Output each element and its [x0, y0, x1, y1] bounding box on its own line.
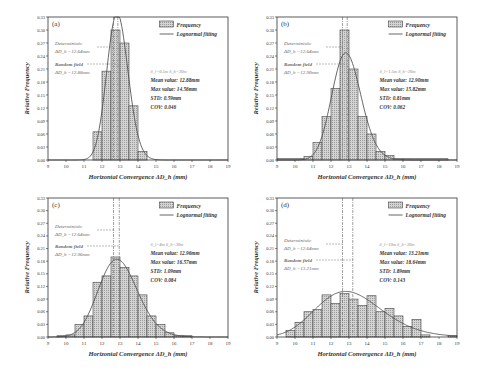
y-tick-label: 0.21 [266, 246, 274, 251]
x-tick-label: 15 [154, 341, 160, 346]
x-tick-label: 11 [82, 341, 87, 346]
x-tick-label: 16 [401, 164, 407, 169]
y-tick-label: 0.21 [266, 67, 274, 72]
y-tick-label: 0.12 [266, 106, 274, 111]
x-tick-label: 9 [276, 164, 279, 169]
y-tick-label: 0.27 [37, 41, 46, 46]
x-tick-label: 15 [383, 164, 389, 169]
x-tick-label: 19 [455, 164, 461, 169]
cov-text: COV: 0.143 [380, 277, 406, 283]
x-tick-label: 17 [190, 341, 196, 346]
y-tick-label: 0.30 [266, 208, 275, 213]
legend-frequency-swatch [160, 202, 174, 208]
y-tick-label: 0.21 [37, 246, 45, 251]
y-axis-label: Relative Frequency [23, 62, 30, 115]
y-tick-label: 0.30 [266, 28, 275, 33]
x-tick-label: 17 [419, 164, 425, 169]
random-field-value: ΔD_h =12.96mm [54, 252, 90, 257]
x-axis-label: Horizontal Convergence ΔD_h (mm) [317, 350, 417, 358]
x-tick-label: 9 [276, 341, 279, 346]
histogram-bar [367, 296, 376, 337]
y-tick-label: 0.24 [266, 233, 275, 238]
x-tick-label: 9 [47, 164, 50, 169]
histogram-bar [111, 30, 120, 160]
legend-frequency-swatch [389, 21, 403, 27]
mean-value-text: Mean value: 13.21mm [379, 250, 429, 256]
x-tick-label: 11 [311, 164, 316, 169]
x-tick-label: 12 [100, 341, 106, 346]
y-tick-label: 0.03 [37, 145, 46, 150]
histogram-bar [111, 257, 120, 337]
deterministic-label: Deterministic [54, 41, 83, 46]
x-tick-label: 14 [136, 164, 142, 169]
histogram-bar [376, 312, 385, 337]
legend-fit-label: Lognormal fitting [405, 212, 447, 218]
max-value-text: Max value: 15.82mm [379, 86, 426, 92]
histogram-bar [403, 326, 412, 337]
deterministic-value: ΔD_h =12.64mm [283, 49, 319, 54]
params-text: δ_l=1.5m δ_h=30m [380, 69, 417, 74]
random-field-value: ΔD_h =13.21mm [283, 266, 319, 271]
x-tick-label: 12 [100, 164, 106, 169]
panel-label: (b) [281, 20, 290, 28]
y-tick-label: 0.15 [37, 271, 46, 276]
histogram-bar [84, 316, 93, 337]
histogram-bar [340, 30, 349, 160]
std-text: STD: 1.09mm [151, 268, 182, 274]
x-tick-label: 13 [118, 341, 124, 346]
std-text: STD: 0.81mm [380, 95, 411, 101]
y-tick-label: 0.03 [266, 145, 275, 150]
random-field-label: Random field [55, 62, 83, 67]
random-field-label: Random field [284, 62, 312, 67]
y-tick-label: 0.06 [266, 309, 275, 314]
y-tick-label: 0.18 [37, 80, 46, 85]
cov-text: COV: 0.046 [151, 104, 177, 110]
y-axis-label: Relative Frequency [252, 241, 259, 294]
y-tick-label: 0.00 [266, 335, 275, 340]
histogram-bar [331, 89, 340, 161]
y-tick-label: 0.00 [37, 335, 46, 340]
histogram-bar [313, 143, 322, 160]
cov-text: COV: 0.062 [380, 104, 406, 110]
y-tick-label: 0.03 [266, 322, 275, 327]
x-tick-label: 13 [118, 164, 124, 169]
x-tick-label: 15 [154, 164, 160, 169]
x-tick-label: 10 [64, 164, 70, 169]
cov-text: COV: 0.084 [151, 277, 177, 283]
chart-panel-d: 9101112131415161718190.000.030.060.090.1… [252, 196, 460, 359]
y-tick-label: 0.33 [266, 196, 275, 201]
mean-value-text: Mean value: 12.96mm [150, 250, 200, 256]
deterministic-label: Deterministic [283, 238, 312, 243]
y-tick-label: 0.24 [37, 54, 46, 59]
x-tick-label: 19 [226, 164, 232, 169]
histogram-bar [156, 324, 165, 337]
y-tick-label: 0.09 [37, 297, 46, 302]
x-tick-label: 18 [208, 341, 214, 346]
histogram-bar [129, 276, 138, 337]
y-tick-label: 0.09 [266, 297, 275, 302]
deterministic-label: Deterministic [54, 224, 83, 229]
y-tick-label: 0.18 [266, 259, 275, 264]
x-tick-label: 14 [136, 341, 142, 346]
figure-svg: 9101112131415161718190.000.030.060.090.1… [0, 0, 477, 378]
histogram-bar [120, 268, 129, 338]
x-tick-label: 14 [365, 341, 371, 346]
x-tick-label: 12 [329, 341, 335, 346]
histogram-bar [349, 299, 358, 337]
y-tick-label: 0.09 [266, 119, 275, 124]
params-text: δ_l=4m δ_h=30m [151, 242, 184, 247]
histogram-bar [102, 71, 111, 160]
histogram-bar [331, 303, 340, 337]
legend-frequency-label: Frequency [177, 203, 202, 209]
histogram-bar [367, 134, 376, 160]
x-tick-label: 19 [226, 341, 232, 346]
legend-fit-label: Lognormal fitting [405, 31, 447, 37]
x-tick-label: 18 [437, 164, 443, 169]
histogram-bar [376, 151, 385, 160]
histogram-bar [385, 308, 394, 337]
panel-label: (c) [52, 201, 60, 209]
max-value-text: Max value: 18.64mm [379, 259, 426, 265]
histogram-bar [120, 43, 129, 160]
y-tick-label: 0.00 [266, 158, 275, 163]
histogram-bars [93, 30, 147, 160]
